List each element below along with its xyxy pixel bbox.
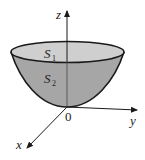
s1-subscript: 1 (52, 54, 56, 63)
x-axis-label: x (15, 137, 22, 152)
z-axis-label: z (55, 7, 61, 22)
y-axis-label: y (128, 113, 136, 128)
paraboloid-diagram: z y x 0 S 1 S 2 (0, 0, 145, 160)
s2-label: S (44, 71, 51, 86)
origin-label: 0 (65, 109, 72, 124)
y-axis (67, 107, 137, 110)
x-axis (27, 107, 67, 148)
s1-label: S (44, 46, 51, 61)
s2-subscript: 2 (52, 79, 56, 88)
